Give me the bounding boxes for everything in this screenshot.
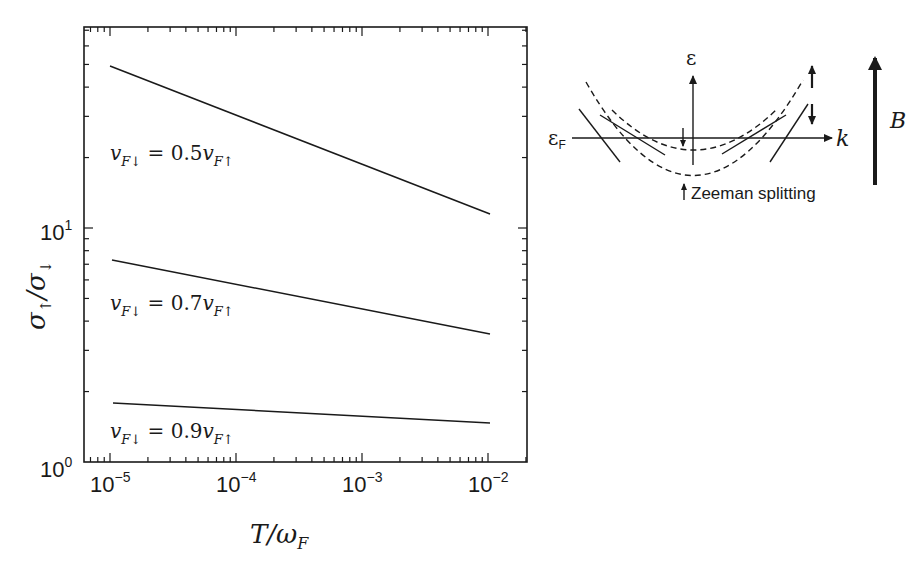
svg-text:10−3: 10−3	[342, 469, 383, 497]
linearized-left-outer	[579, 109, 620, 162]
series-label-0.7: vF↓ = 0.7vF↑	[110, 291, 234, 319]
y-axis-label: σ↑/σ↓	[21, 261, 55, 330]
svg-text:10−4: 10−4	[216, 469, 257, 497]
svg-text:100: 100	[40, 454, 72, 482]
linearized-right-outer	[770, 104, 808, 162]
x-axis-ticks	[90, 27, 525, 462]
svg-text:σ↑/σ↓: σ↑/σ↓	[21, 261, 55, 330]
svg-text:T/ωF: T/ωF	[250, 519, 309, 553]
svg-text:vF↓ = 0.5vF↑: vF↓ = 0.5vF↑	[110, 141, 234, 169]
series-label-0.9: vF↓ = 0.9vF↑	[110, 419, 234, 447]
figure: vF↓ = 0.5vF↑ vF↓ = 0.7vF↑ vF↓ = 0.9vF↑ 1…	[0, 0, 920, 570]
x-axis-label: T/ωF	[250, 519, 309, 553]
x-tick-labels: 10−5 10−4 10−3 10−2	[90, 469, 509, 497]
k-axis-label: k	[836, 126, 849, 151]
energy-axis-label: ε	[686, 46, 696, 70]
y-axis-ticks	[84, 30, 527, 391]
series-label-0.5: vF↓ = 0.5vF↑	[110, 141, 234, 169]
fermi-level-label: εF	[548, 126, 566, 152]
band-upper-dashed	[612, 110, 776, 150]
svg-text:vF↓ = 0.7vF↑: vF↓ = 0.7vF↑	[110, 291, 234, 319]
linearized-right-inner	[722, 115, 786, 154]
plot-area: vF↓ = 0.5vF↑ vF↓ = 0.7vF↑ vF↓ = 0.9vF↑ 1…	[21, 27, 527, 553]
svg-text:10−2: 10−2	[468, 469, 509, 497]
y-tick-labels: 100 101	[40, 217, 72, 482]
zeeman-splitting-label: Zeeman splitting	[691, 184, 816, 203]
svg-text:101: 101	[40, 217, 72, 245]
svg-text:10−5: 10−5	[90, 469, 131, 497]
plot-frame	[84, 27, 527, 462]
series-line-0.5	[110, 66, 490, 214]
svg-text:vF↓ = 0.9vF↑: vF↓ = 0.9vF↑	[110, 419, 234, 447]
magnetic-field-label: B	[889, 108, 906, 133]
zeeman-schematic: ε εF k Zeeman splitting B	[548, 46, 906, 203]
